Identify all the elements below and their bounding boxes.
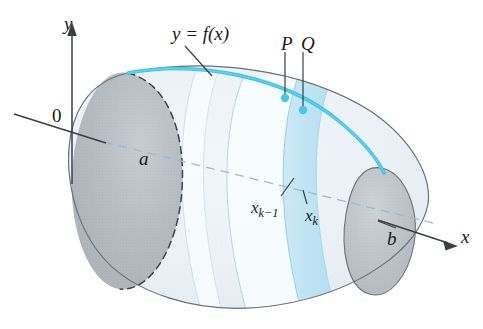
- right-bound-label: b: [387, 229, 397, 248]
- x-axis-label: x: [461, 227, 469, 246]
- partition-xk-minus-1-subscript: k−1: [259, 206, 279, 220]
- point-p-label: P: [281, 34, 293, 53]
- partition-label-xk-minus-1: xk−1: [251, 199, 278, 219]
- origin-label: 0: [52, 106, 62, 125]
- figure-canvas: [0, 0, 483, 329]
- x-axis-arrowhead: [443, 241, 458, 251]
- partition-xk-base: x: [305, 206, 313, 225]
- partition-xk-minus-1-base: x: [251, 198, 259, 217]
- curve-equation-label: y = f(x): [172, 24, 229, 43]
- point-q-dot: [299, 106, 307, 114]
- partition-label-xk: xk: [305, 207, 318, 227]
- surface-of-revolution-figure: y 0 x y = f(x) P Q a b xk−1 xk: [0, 0, 483, 329]
- point-q-label: Q: [301, 34, 315, 53]
- partition-xk-subscript: k: [313, 214, 318, 228]
- y-axis-label: y: [64, 14, 72, 33]
- left-bound-label: a: [139, 149, 149, 168]
- point-p-dot: [281, 94, 289, 102]
- right-cap: [344, 168, 415, 295]
